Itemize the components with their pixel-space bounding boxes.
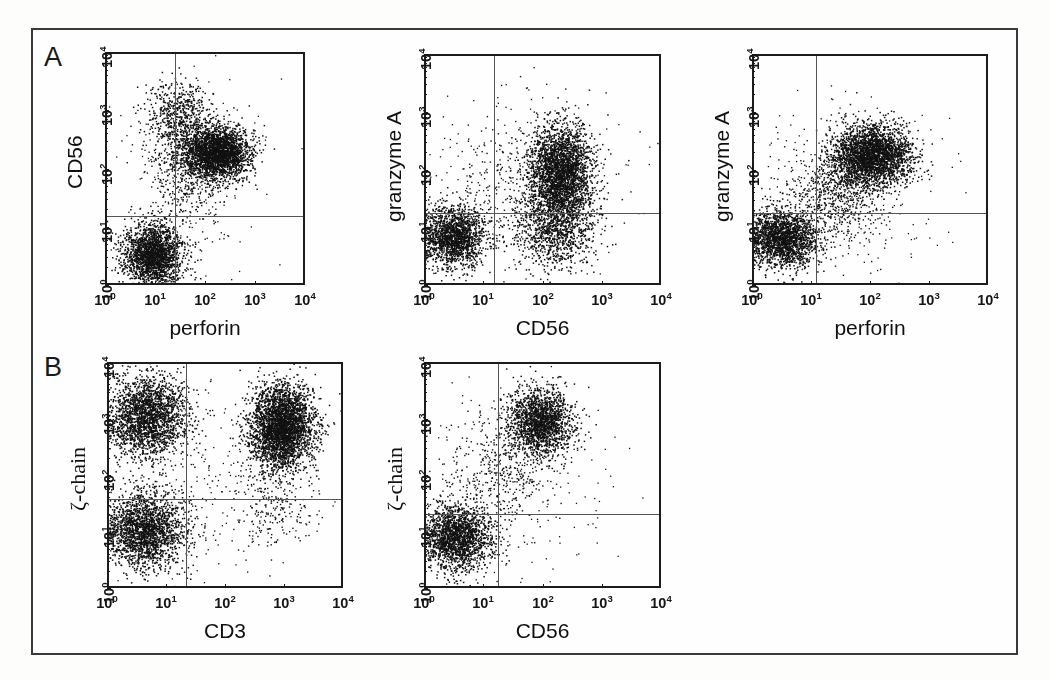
- x-tickmark: [805, 283, 806, 286]
- x-tickmark: [452, 283, 453, 286]
- x-tickmark: [474, 283, 475, 286]
- x-tickmark: [271, 586, 272, 589]
- x-tickmark: [770, 283, 771, 286]
- x-tickmark: [465, 586, 466, 589]
- x-axis-tick-label: 101: [800, 290, 821, 308]
- y-axis-tick-label: 100: [744, 280, 762, 301]
- x-tickmark: [334, 586, 335, 589]
- y-tickmark: [107, 497, 110, 498]
- x-tickmark: [202, 586, 203, 589]
- figure-root: AB 100101102103104100101102103104perfori…: [0, 0, 1050, 680]
- y-tickmark: [107, 458, 110, 459]
- y-tickmark: [424, 84, 427, 85]
- y-tickmark: [424, 187, 427, 188]
- x-tickmark: [540, 283, 541, 286]
- y-tickmark: [752, 192, 755, 193]
- x-tickmark: [452, 586, 453, 589]
- x-axis-tick-label: 104: [977, 290, 998, 308]
- x-tickmark: [525, 283, 526, 286]
- x-tickmark: [184, 586, 185, 589]
- x-tickmark: [190, 283, 191, 286]
- y-tickmark: [105, 141, 108, 142]
- y-tickmark: [424, 135, 427, 136]
- x-tickmark: [829, 283, 830, 286]
- x-tickmark: [501, 586, 502, 589]
- x-tickmark: [533, 283, 534, 286]
- y-axis-title: ζ-chain: [65, 447, 91, 511]
- x-tickmark: [200, 283, 201, 286]
- x-axis-tick-label: 104: [332, 593, 353, 611]
- x-axis-title: perforin: [169, 316, 240, 340]
- x-tickmark: [120, 283, 121, 286]
- x-tickmark: [888, 283, 889, 286]
- x-axis-tick-label: 102: [859, 290, 880, 308]
- y-tickmark: [424, 401, 427, 402]
- x-tickmark: [970, 283, 971, 286]
- y-tickmark: [424, 250, 427, 251]
- x-tickmark: [157, 586, 158, 589]
- x-tickmark: [229, 283, 230, 286]
- x-tickmark: [125, 586, 126, 589]
- x-tickmark: [253, 586, 254, 589]
- x-tickmark: [166, 584, 167, 588]
- y-tickmark: [752, 84, 755, 85]
- x-axis-tick-label: 103: [918, 290, 939, 308]
- x-tickmark: [153, 283, 154, 286]
- y-tickmark: [424, 458, 427, 459]
- y-tickmark: [107, 492, 110, 493]
- x-tickmark: [330, 586, 331, 589]
- y-axis-tick-label: 100: [416, 280, 434, 301]
- x-tickmark: [916, 283, 917, 286]
- x-tickmark: [194, 283, 195, 286]
- x-axis-tick-label: 103: [244, 290, 265, 308]
- y-tickmark: [105, 186, 108, 187]
- x-tickmark: [290, 283, 291, 286]
- y-tickmark: [107, 505, 110, 506]
- x-axis-title: CD3: [204, 619, 246, 643]
- scatter-panel-b2: 100101102103104100101102103104CD56ζ-chai…: [424, 362, 661, 588]
- y-tickmark: [424, 514, 427, 515]
- x-tickmark: [578, 283, 579, 286]
- y-tickmark: [424, 497, 427, 498]
- x-tickmark: [340, 586, 341, 589]
- y-tickmark: [105, 199, 108, 200]
- y-tickmark: [107, 549, 110, 550]
- x-tickmark: [630, 586, 631, 589]
- x-tickmark: [225, 584, 226, 588]
- y-tickmark: [424, 571, 427, 572]
- x-axis-title: CD56: [516, 316, 570, 340]
- x-tickmark: [957, 283, 958, 286]
- y-tickmark: [424, 554, 427, 555]
- x-tickmark: [923, 283, 924, 286]
- x-tickmark: [320, 586, 321, 589]
- y-axis-tick-label: 103: [416, 414, 434, 435]
- x-tickmark: [839, 283, 840, 286]
- x-tickmark: [637, 586, 638, 589]
- panel-letter-a: A: [44, 42, 62, 73]
- y-tickmark: [424, 441, 427, 442]
- x-tickmark: [303, 283, 304, 286]
- y-tickmark: [107, 571, 110, 572]
- x-tickmark: [596, 586, 597, 589]
- x-tickmark: [442, 283, 443, 286]
- y-tickmark: [105, 192, 108, 193]
- y-axis-title: granzyme A: [710, 111, 734, 222]
- x-tickmark: [571, 283, 572, 286]
- x-axis-tick-label: 101: [144, 290, 165, 308]
- x-tickmark: [620, 586, 621, 589]
- y-tickmark: [424, 505, 427, 506]
- y-tickmark: [424, 94, 427, 95]
- y-tickmark: [105, 133, 108, 134]
- x-tickmark: [861, 283, 862, 286]
- x-tickmark: [537, 586, 538, 589]
- x-tickmark: [537, 283, 538, 286]
- y-tickmark: [752, 210, 755, 211]
- x-tickmark: [798, 283, 799, 286]
- x-tickmark: [529, 586, 530, 589]
- x-tickmark: [302, 586, 303, 589]
- y-tickmark: [107, 448, 110, 449]
- y-tickmark: [424, 210, 427, 211]
- y-axis-tick-label: 101: [744, 222, 762, 243]
- x-tickmark: [811, 281, 812, 285]
- y-tickmark: [752, 135, 755, 136]
